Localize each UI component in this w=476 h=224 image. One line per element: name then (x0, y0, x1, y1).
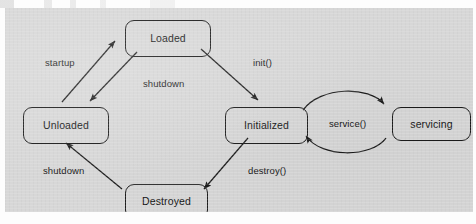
state-label-servicing: servicing (410, 119, 452, 130)
state-node-destroyed[interactable]: Destroyed (125, 184, 208, 212)
edge-label-destroy: destroy() (248, 166, 286, 176)
scan-artifact-strip (0, 0, 476, 8)
state-label-initialized: Initialized (244, 120, 289, 131)
edge-destroy (204, 138, 248, 189)
state-node-loaded[interactable]: Loaded (125, 20, 211, 57)
state-node-unloaded[interactable]: Unloaded (23, 107, 109, 144)
state-node-initialized[interactable]: Initialized (225, 107, 308, 144)
state-label-destroyed: Destroyed (142, 196, 191, 207)
edge-shutdown-top (90, 52, 137, 101)
state-label-unloaded: Unloaded (43, 120, 89, 131)
screenshot-root: Loaded Unloaded Initialized servicing De… (0, 0, 476, 224)
edge-init (201, 49, 258, 100)
edge-label-shutdown-top: shutdown (143, 79, 184, 89)
edge-label-shutdown-bottom: shutdown (43, 166, 84, 176)
state-node-servicing[interactable]: servicing (392, 107, 471, 141)
state-diagram-panel: Loaded Unloaded Initialized servicing De… (5, 8, 473, 212)
edge-label-startup: startup (45, 58, 75, 68)
state-label-loaded: Loaded (150, 33, 186, 44)
edge-label-service: service() (329, 119, 366, 129)
edge-startup (62, 41, 115, 102)
edge-label-init: init() (253, 58, 272, 68)
